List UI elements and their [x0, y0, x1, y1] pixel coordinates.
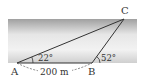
point-label-B: B — [88, 66, 95, 77]
angle-label-B: 52° — [101, 53, 116, 63]
point-label-C: C — [121, 5, 129, 16]
angle-label-A: 22° — [38, 53, 53, 63]
distance-label: 200 m — [40, 67, 69, 77]
river-band — [8, 19, 137, 63]
diagram-canvas: C A B 22° 52° 200 m — [0, 0, 143, 84]
point-label-A: A — [10, 66, 19, 77]
